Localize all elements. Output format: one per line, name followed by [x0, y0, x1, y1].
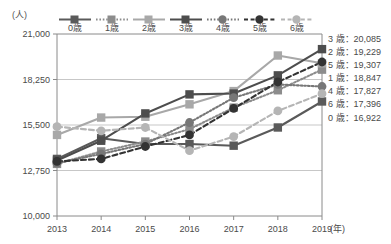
data-point	[185, 131, 194, 140]
y-axis-tick-label: 18,250	[22, 75, 50, 85]
data-point	[229, 132, 238, 141]
data-point	[53, 157, 62, 166]
population-line-chart: (人) 0歳1歳2歳3歳4歳5歳6歳 10,00012,75015,50018,…	[0, 0, 391, 244]
data-point	[318, 58, 327, 67]
x-axis-tick-label: 2019	[312, 224, 332, 234]
y-axis-tick-label: 12,750	[22, 166, 50, 176]
data-point	[229, 93, 238, 102]
data-point	[273, 107, 282, 116]
data-point	[97, 113, 105, 121]
data-point	[185, 100, 193, 108]
data-point	[141, 123, 150, 132]
x-axis-tick-label: 2014	[91, 224, 111, 234]
data-point	[141, 142, 150, 151]
series-value-list: 3 歳：20,0852 歳：19,2295 歳：19,3071 歳：18,847…	[328, 33, 390, 125]
data-point	[97, 155, 106, 164]
data-point	[185, 118, 194, 127]
data-point	[318, 45, 326, 53]
x-axis-tick-label: 2013	[47, 224, 67, 234]
data-point	[229, 104, 238, 113]
x-axis-tick-label: 2018	[268, 224, 288, 234]
data-point	[274, 123, 282, 131]
x-axis-tick-label: 2015	[135, 224, 155, 234]
data-point	[318, 97, 326, 105]
data-point	[97, 126, 106, 135]
data-point	[53, 122, 62, 131]
data-point	[97, 137, 105, 145]
y-axis-tick-label: 10,000	[22, 211, 50, 221]
data-point	[185, 90, 193, 98]
series-value-row: 4 歳：17,827	[328, 85, 390, 98]
data-point	[318, 89, 327, 98]
series-value-row: 6 歳：17,396	[328, 98, 390, 111]
data-point	[141, 109, 149, 117]
data-point	[273, 78, 282, 87]
data-point	[53, 131, 61, 139]
y-axis-tick-label: 21,000	[22, 29, 50, 39]
x-axis-tick-label: 2016	[179, 224, 199, 234]
series-value-row: 3 歳：20,085	[328, 33, 390, 46]
x-axis-tick-label: 2017	[224, 224, 244, 234]
series-value-row: 1 歳：18,847	[328, 72, 390, 85]
series-value-row: 0 歳：16,922	[328, 112, 390, 125]
data-point	[274, 51, 282, 59]
data-point	[229, 141, 237, 149]
series-value-row: 5 歳：19,307	[328, 59, 390, 72]
series-value-row: 2 歳：19,229	[328, 46, 390, 59]
y-axis-tick-label: 15,500	[22, 120, 50, 130]
data-point	[185, 146, 194, 155]
x-axis-unit-label: (年)	[330, 223, 345, 234]
